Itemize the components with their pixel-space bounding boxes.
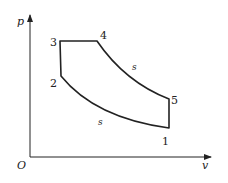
compression-label: s	[98, 117, 103, 127]
point-label-4: 4	[100, 29, 107, 42]
point-label-2: 2	[50, 77, 57, 90]
y-axis-label: p	[17, 15, 24, 28]
point-label-3: 3	[50, 36, 57, 49]
expansion-label: s	[132, 62, 137, 72]
cycle-path	[60, 41, 169, 128]
pv-diagram: p v O 3 4 2 5 1 s s	[0, 0, 228, 183]
point-label-5: 5	[171, 94, 178, 107]
x-axis-label: v	[202, 159, 209, 172]
origin-label: O	[17, 159, 26, 172]
point-label-1: 1	[162, 135, 169, 148]
